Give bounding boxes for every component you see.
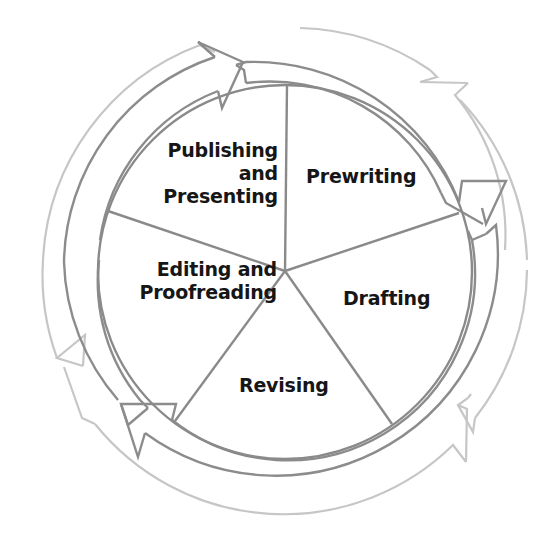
- publishing-line-2: and: [158, 162, 278, 185]
- prewriting-text: Prewriting: [306, 165, 416, 188]
- stage-label-drafting: Drafting: [343, 287, 430, 310]
- stage-label-publishing: Publishing and Presenting: [158, 139, 278, 208]
- editing-line-1: Editing and: [132, 258, 277, 281]
- stage-label-editing: Editing and Proofreading: [132, 258, 277, 304]
- publishing-line-3: Presenting: [158, 185, 278, 208]
- publishing-line-1: Publishing: [158, 139, 278, 162]
- stage-label-revising: Revising: [239, 374, 329, 397]
- editing-line-2: Proofreading: [132, 281, 277, 304]
- divider-right: [285, 213, 459, 271]
- divider-top: [285, 85, 287, 271]
- revising-text: Revising: [239, 374, 329, 397]
- drafting-text: Drafting: [343, 287, 430, 310]
- writing-process-diagram: Publishing and Presenting Prewriting Dra…: [0, 0, 552, 543]
- stage-label-prewriting: Prewriting: [306, 165, 416, 188]
